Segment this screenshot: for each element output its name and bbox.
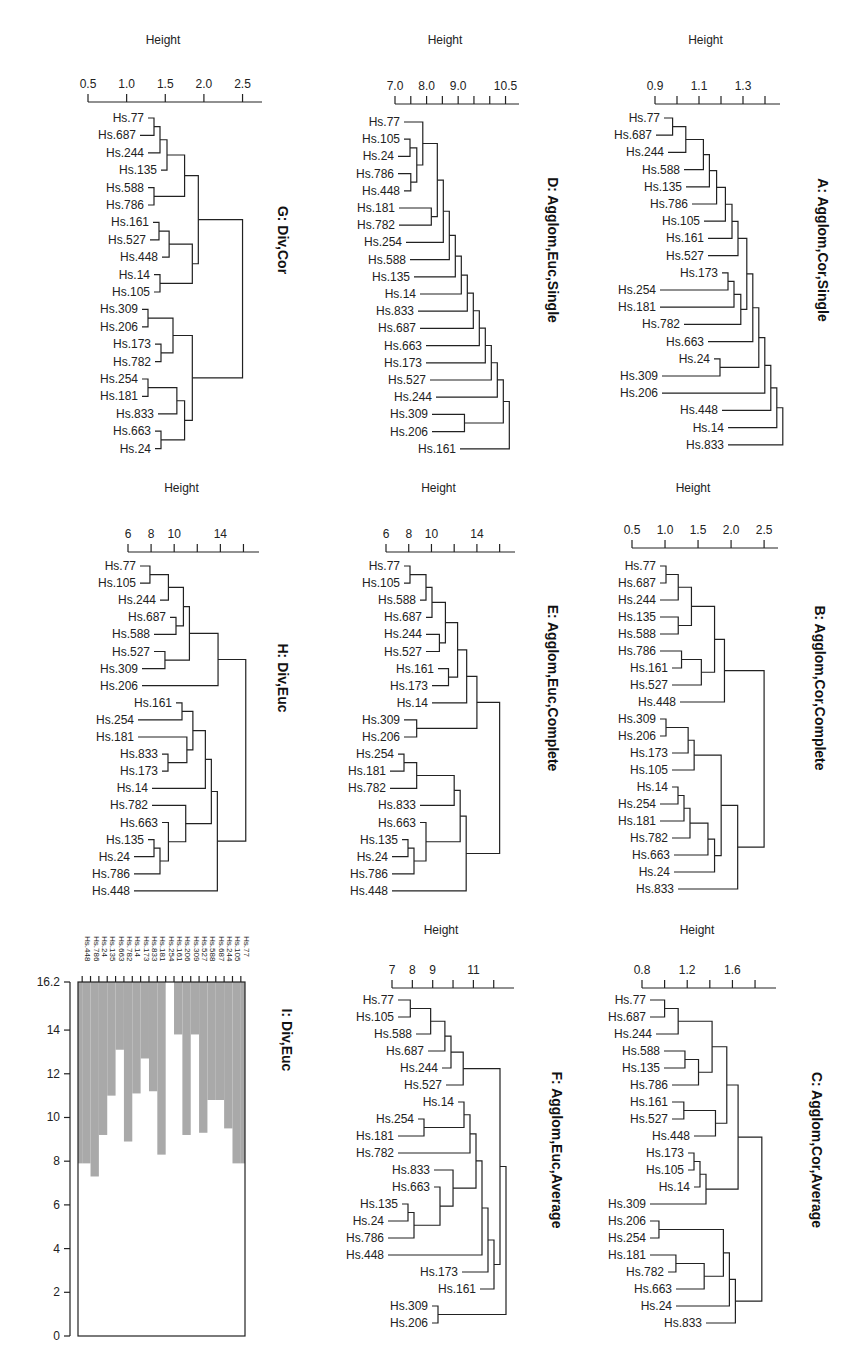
panel-title: B: Agglom,Cor,Complete: [812, 605, 828, 770]
dendrogram-branch: [162, 754, 168, 771]
dendrogram-branch: [418, 275, 467, 311]
dendrogram-branch: [154, 155, 185, 196]
leaf-label: Hs.663: [378, 816, 416, 830]
leaf-label: Hs.448: [362, 184, 400, 198]
leaf-label: Hs.244: [118, 593, 156, 607]
leaf-label: Hs.14: [133, 936, 142, 957]
dendrogram-branch: [676, 1264, 704, 1290]
leaf-label: Hs.161: [134, 696, 172, 710]
dendrogram-branch: [678, 587, 691, 625]
leaf-label: Hs.173: [120, 764, 158, 778]
leaf-label: Hs.181: [348, 764, 386, 778]
leaf-label: Hs.244: [626, 145, 664, 159]
leaf-label: Hs.833: [120, 747, 158, 761]
leaf-label: Hs.527: [666, 249, 704, 263]
leaf-label: Hs.309: [390, 1299, 428, 1313]
dendrogram-branch: [660, 575, 678, 601]
leaf-label: Hs.786: [356, 167, 394, 181]
dendrogram-e: Height681014Hs.77Hs.105Hs.588Hs.687Hs.24…: [320, 478, 560, 898]
leaf-label: Hs.135: [106, 833, 144, 847]
dendrogram-branch: [656, 1009, 678, 1035]
leaf-label: Hs.782: [356, 1146, 394, 1160]
tick-label: 1.5: [157, 77, 174, 91]
banner-bar: [91, 982, 99, 1176]
dendrogram-branch: [404, 122, 423, 165]
leaf-label: Hs.135: [622, 1061, 660, 1075]
leaf-label: Hs.14: [119, 268, 151, 282]
tick-label: 14: [214, 527, 228, 541]
leaf-label: Hs.588: [618, 627, 656, 641]
tick-label: 14: [470, 527, 484, 541]
dendrogram-branch: [161, 401, 185, 440]
tick-label: 9: [429, 963, 436, 977]
leaf-label: Hs.244: [384, 627, 422, 641]
leaf-label: Hs.77: [242, 936, 251, 957]
dendrogram-branch: [404, 566, 410, 583]
y-tick-label: 4: [53, 1242, 60, 1256]
leaf-label: Hs.206: [362, 730, 400, 744]
tick-label: 0.9: [647, 79, 664, 93]
panel-d-agglom-euc-single: Height7.08.09.010.5Hs.77Hs.105Hs.24Hs.78…: [330, 30, 560, 470]
dendrogram-branch: [148, 188, 154, 205]
leaf-label: Hs.782: [642, 317, 680, 331]
leaf-label: Hs.161: [630, 661, 668, 675]
tick-label: 1.1: [691, 79, 708, 93]
leaf-label: Hs.588: [374, 1027, 412, 1041]
tick-label: 1.0: [118, 77, 135, 91]
leaf-label: Hs.135: [119, 163, 157, 177]
tick-label: 1.2: [679, 963, 696, 977]
leaf-label: Hs.254: [96, 713, 134, 727]
leaf-label: Hs.254: [364, 235, 402, 249]
leaf-label: Hs.244: [225, 936, 234, 962]
leaf-label: Hs.206: [100, 679, 138, 693]
dendrogram-branch: [706, 1085, 738, 1189]
leaf-label: Hs.181: [100, 389, 138, 403]
dendrogram-branch: [462, 1208, 488, 1272]
tick-label: 1.0: [657, 523, 674, 537]
leaf-label: Hs.663: [392, 1180, 430, 1194]
banner-bar: [82, 982, 90, 1163]
banner-bar: [216, 982, 224, 1100]
leaf-label: Hs.588: [106, 181, 144, 195]
leaf-label: Hs.105: [646, 1163, 684, 1177]
leaf-label: Hs.833: [686, 438, 724, 452]
dendrogram-branch: [426, 790, 460, 841]
leaf-label: Hs.24: [100, 936, 109, 957]
dendrogram-branch: [728, 408, 783, 445]
leaf-label: Hs.161: [630, 1095, 668, 1109]
dendrogram-branch: [160, 244, 192, 283]
banner-plot-i: 0246810121416.2Hs.448Hs.786Hs.24Hs.135Hs…: [20, 930, 310, 1360]
panel-a-agglom-cor-single: Height0.91.11.3Hs.77Hs.687Hs.244Hs.588Hs…: [590, 30, 830, 470]
dendrogram-branch: [650, 1000, 665, 1017]
leaf-label: Hs.254: [376, 1112, 414, 1126]
tick-label: 1.5: [690, 523, 707, 537]
leaf-label: Hs.687: [128, 610, 166, 624]
panel-e-agglom-euc-complete: Height681014Hs.77Hs.105Hs.588Hs.687Hs.24…: [320, 478, 560, 898]
panel-f-agglom-euc-average: Height78911Hs.77Hs.105Hs.588Hs.687Hs.244…: [330, 920, 570, 1360]
dendrogram-branch: [399, 208, 431, 225]
y-tick-label: 10: [47, 1110, 61, 1124]
dendrogram-d: Height7.08.09.010.5Hs.77Hs.105Hs.24Hs.78…: [330, 30, 560, 470]
tick-label: 6: [383, 527, 390, 541]
leaf-label: Hs.161: [438, 1282, 476, 1296]
dendrogram-branch: [676, 1253, 729, 1306]
panel-title: F: Agglom,Euc,Average: [549, 1072, 565, 1229]
panel-i-div-euc-banner: 0246810121416.2Hs.448Hs.786Hs.24Hs.135Hs…: [20, 930, 310, 1360]
leaf-label: Hs.448: [92, 884, 130, 898]
leaf-label: Hs.254: [618, 283, 656, 297]
leaf-label: Hs.448: [120, 250, 158, 264]
leaf-label: Hs.663: [113, 424, 151, 438]
dendrogram-a: Height0.91.11.3Hs.77Hs.687Hs.244Hs.588Hs…: [590, 30, 830, 470]
leaf-label: Hs.687: [378, 321, 416, 335]
banner-bar: [232, 982, 240, 1163]
tick-label: 0.5: [80, 77, 97, 91]
leaf-label: Hs.588: [112, 627, 150, 641]
axis-title: Height: [146, 33, 181, 47]
leaf-label: Hs.786: [630, 1078, 668, 1092]
leaf-label: Hs.135: [360, 1197, 398, 1211]
leaf-label: Hs.687: [384, 610, 422, 624]
dendrogram-branch: [392, 848, 414, 874]
leaf-label: Hs.77: [629, 111, 661, 125]
axis-title: Height: [680, 923, 715, 937]
leaf-label: Hs.786: [106, 198, 144, 212]
